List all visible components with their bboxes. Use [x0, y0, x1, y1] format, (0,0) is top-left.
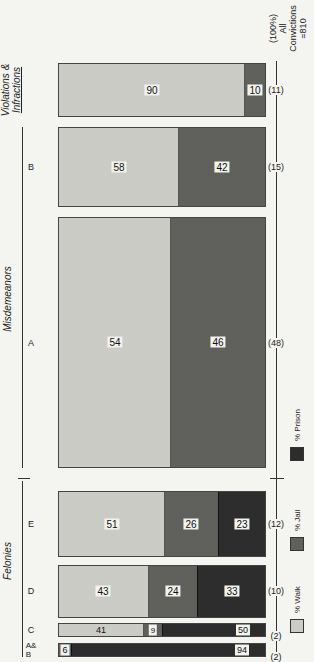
segment-walk: 58 — [59, 128, 178, 206]
group-divider — [18, 478, 30, 479]
segment-jail: 9 — [143, 624, 162, 636]
segment-prison: 33 — [197, 566, 265, 617]
group-title-violations-line1: Violations & — [0, 64, 11, 117]
legend-swatch-prison — [290, 447, 304, 461]
bar-felony-e: 51 26 23 — [58, 491, 266, 557]
value-label: 94 — [235, 645, 249, 656]
felony-misdemeanor-divider — [270, 478, 284, 479]
group-title-violations: Violations & Infractions — [0, 64, 22, 117]
column-label-felony-ab: A& B — [26, 641, 37, 659]
group-title-misdemeanors: Misdemeanors — [2, 266, 13, 332]
group-title-felonies: Felonies — [2, 542, 13, 580]
value-label: 50 — [236, 625, 250, 636]
segment-jail: 42 — [178, 128, 265, 206]
segment-walk: 43 — [59, 566, 148, 617]
segment-walk: 90 — [59, 64, 244, 116]
count-felony-ab: (2) — [270, 652, 283, 662]
bar-felony-d: 43 24 33 — [58, 565, 266, 618]
count-felony-e: (12) — [267, 519, 285, 529]
bar-misdemeanor-b: 58 42 — [58, 127, 266, 207]
segment-walk: 54 — [59, 218, 170, 467]
value-label: 43 — [96, 586, 111, 597]
column-label-felony-c: C — [28, 625, 35, 635]
segment-walk: 51 — [59, 492, 164, 556]
count-violations: (11) — [267, 85, 284, 95]
value-label: 26 — [184, 519, 199, 530]
segment-walk: 41 — [59, 624, 143, 636]
segment-jail: 26 — [164, 492, 218, 556]
legend-label-jail: % Jail — [293, 510, 302, 531]
value-label: 90 — [144, 85, 159, 96]
column-label-misdemeanor-a: A — [28, 338, 34, 348]
legend-prison: % Prison — [290, 409, 304, 461]
legend-label-walk: % Walk — [293, 586, 302, 613]
column-label-a: A& — [26, 641, 37, 650]
legend-walk: % Walk — [290, 586, 304, 633]
column-label-felony-d: D — [28, 586, 35, 596]
value-label: 41 — [94, 625, 108, 636]
count-misdemeanor-b: (15) — [267, 162, 285, 172]
segment-jail: 24 — [148, 566, 197, 617]
value-label: 23 — [234, 519, 249, 530]
legend-swatch-jail — [290, 537, 304, 551]
segment-prison: 94 — [71, 644, 265, 656]
total-title: All Convictions — [278, 0, 298, 57]
value-label: 46 — [211, 337, 226, 348]
value-label: 54 — [107, 337, 122, 348]
value-label: 24 — [165, 586, 180, 597]
count-felony-d: (10) — [267, 586, 285, 596]
legend-label-prison: % Prison — [293, 409, 302, 441]
group-title-violations-line2: Infractions — [11, 64, 22, 117]
segment-jail: 6 — [59, 644, 71, 656]
value-label: 58 — [111, 162, 126, 173]
bar-felony-ab: 6 94 — [58, 643, 266, 657]
bar-felony-c: 41 9 50 — [58, 623, 266, 637]
value-label: 33 — [224, 586, 239, 597]
group-line-felonies — [22, 481, 23, 657]
group-line-misdemeanors — [22, 127, 23, 468]
count-felony-c: (2) — [270, 631, 283, 641]
value-label: 42 — [215, 162, 230, 173]
base-axis-line — [276, 61, 277, 661]
value-label: 6 — [61, 645, 70, 656]
column-label-misdemeanor-b: B — [28, 162, 34, 172]
value-label: 9 — [149, 625, 157, 636]
segment-jail: 10 — [244, 64, 265, 116]
legend-swatch-walk — [290, 619, 304, 633]
bar-misdemeanor-a: 54 46 — [58, 217, 266, 468]
segment-prison: 50 — [162, 624, 265, 636]
count-misdemeanor-a: (48) — [267, 338, 285, 348]
column-label-felony-e: E — [28, 519, 34, 529]
total-convictions-label: (100%) All Convictions =810 — [268, 0, 308, 57]
segment-prison: 23 — [218, 492, 265, 556]
column-label-b: B — [26, 650, 31, 659]
value-label: 10 — [248, 85, 263, 96]
value-label: 51 — [104, 519, 119, 530]
bar-violations: 90 10 — [58, 63, 266, 117]
total-percent: (100%) — [268, 0, 278, 57]
legend-jail: % Jail — [290, 510, 304, 551]
total-count: =810 — [298, 0, 308, 57]
segment-jail: 46 — [170, 218, 265, 467]
